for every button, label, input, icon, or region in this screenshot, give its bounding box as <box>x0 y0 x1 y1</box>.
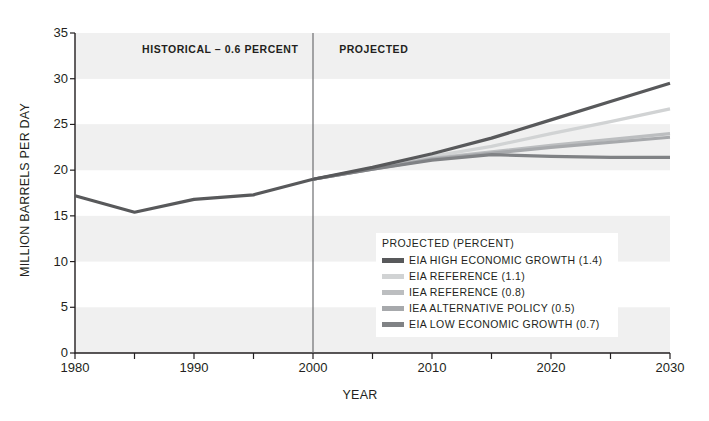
y-axis-tick-label: 25 <box>28 116 68 131</box>
legend-swatch <box>382 258 404 263</box>
x-axis-tick-label: 2000 <box>278 360 348 375</box>
legend-swatch <box>382 290 404 295</box>
legend-item: IEA REFERENCE (0.8) <box>382 284 612 300</box>
y-axis-tick-label: 10 <box>28 254 68 269</box>
legend-item: IEA ALTERNATIVE POLICY (0.5) <box>382 300 612 316</box>
y-axis-tick-labels: 05101520253035 <box>0 0 68 421</box>
legend-title: PROJECTED (PERCENT) <box>382 237 612 249</box>
x-axis-tick-label: 2020 <box>516 360 586 375</box>
legend-swatch <box>382 306 404 311</box>
plot-area <box>0 0 709 421</box>
x-axis-title: YEAR <box>40 388 680 402</box>
y-axis-tick-label: 30 <box>28 71 68 86</box>
legend-item: EIA LOW ECONOMIC GROWTH (0.7) <box>382 316 612 332</box>
x-axis-tick-label: 2030 <box>635 360 705 375</box>
historical-period-label: HISTORICAL – 0.6 PERCENT <box>142 43 298 55</box>
series-line <box>75 179 313 212</box>
x-axis-tick-label: 1990 <box>159 360 229 375</box>
chart-legend: PROJECTED (PERCENT) EIA HIGH ECONOMIC GR… <box>376 233 618 337</box>
legend-label: EIA LOW ECONOMIC GROWTH (0.7) <box>409 318 600 330</box>
x-axis-tick-label: 2010 <box>397 360 467 375</box>
legend-swatch <box>382 322 404 327</box>
legend-label: IEA REFERENCE (0.8) <box>409 286 525 298</box>
y-axis-tick-label: 0 <box>28 345 68 360</box>
legend-item: EIA HIGH ECONOMIC GROWTH (1.4) <box>382 252 612 268</box>
grid-band <box>75 124 670 170</box>
legend-label: EIA HIGH ECONOMIC GROWTH (1.4) <box>409 254 602 266</box>
legend-item: EIA REFERENCE (1.1) <box>382 268 612 284</box>
grid-band <box>75 33 670 79</box>
y-axis-tick-label: 20 <box>28 162 68 177</box>
y-axis-tick-label: 35 <box>28 25 68 40</box>
oil-demand-line-chart: MILLION BARRELS PER DAY 05101520253035 1… <box>0 0 709 421</box>
y-axis-tick-label: 15 <box>28 208 68 223</box>
x-axis-tick-label: 1980 <box>40 360 110 375</box>
legend-swatch <box>382 274 404 279</box>
legend-label: EIA REFERENCE (1.1) <box>409 270 525 282</box>
legend-entries: EIA HIGH ECONOMIC GROWTH (1.4)EIA REFERE… <box>382 252 612 332</box>
legend-label: IEA ALTERNATIVE POLICY (0.5) <box>409 302 575 314</box>
y-axis-tick-label: 5 <box>28 299 68 314</box>
projected-period-label: PROJECTED <box>339 43 408 55</box>
